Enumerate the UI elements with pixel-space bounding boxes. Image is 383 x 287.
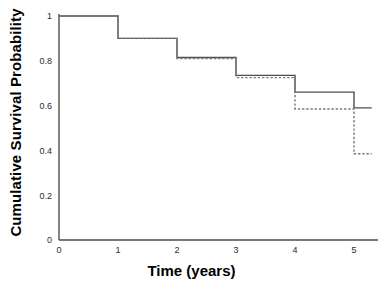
x-axis-title: Time (years) [0, 262, 383, 279]
plot-area [0, 0, 383, 287]
survival-curve-figure: Cumulative Survival Probability 1 0.8 0.… [0, 0, 383, 287]
solid-survival-curve [59, 16, 372, 108]
dashed-survival-curve [59, 16, 372, 154]
